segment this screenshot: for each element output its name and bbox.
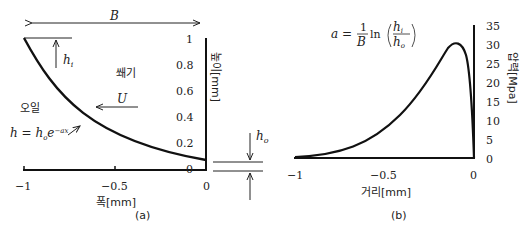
y-tick-label: 0.6: [176, 85, 194, 98]
figure: B hi −1 −0.5 0 폭[mm] (a) 1 0.8 0.6 0.4 0…: [0, 0, 523, 229]
caption-b: (b): [391, 209, 407, 222]
wedge-label: 쐐기: [116, 67, 136, 80]
y-tick-label: 0.4: [176, 111, 194, 124]
x-tick-label: −1: [287, 169, 303, 182]
x-tick-label: 0: [203, 180, 210, 193]
svg-text:B: B: [356, 35, 366, 49]
y-tick-label: 25: [486, 58, 500, 71]
svg-text:1: 1: [360, 21, 367, 34]
caption-a: (a): [135, 209, 150, 222]
velocity-label: U: [117, 92, 128, 106]
y-tick-label: 5: [486, 134, 493, 147]
y-tick-label: 10: [486, 115, 500, 128]
b-label: B: [109, 9, 119, 23]
svg-text:ho: ho: [393, 35, 405, 50]
y-tick-label: 1: [186, 33, 193, 46]
y-tick-label: 20: [486, 77, 500, 90]
x-axis-label-a: 폭[mm]: [96, 196, 136, 209]
y-axis-label-b: 압력[Mpa]: [506, 52, 519, 104]
thickness-equation: h = hoe−ax: [10, 126, 69, 142]
ho-label: ho: [256, 129, 269, 145]
alpha-formula: a = 1 B ln hi ho: [331, 20, 415, 50]
x-tick-label: −0.5: [101, 180, 128, 193]
x-tick-label: −0.5: [370, 169, 397, 182]
svg-text:ln: ln: [370, 28, 381, 41]
y-tick-label: 0: [186, 163, 193, 176]
panel-a: B hi −1 −0.5 0 폭[mm] (a) 1 0.8 0.6 0.4 0…: [10, 9, 269, 222]
pressure-curve: [295, 43, 474, 158]
oil-label: 오일: [20, 101, 40, 115]
y-tick-label: 30: [486, 39, 500, 52]
hi-label: hi: [63, 53, 74, 69]
svg-text:a =: a =: [331, 27, 352, 41]
y-tick-label: 0: [486, 153, 493, 166]
equation-pointer-arrow: [68, 126, 80, 135]
x-tick-label: −1: [15, 180, 31, 193]
y-tick-label: 35: [486, 20, 500, 33]
y-tick-label: 0.2: [176, 137, 194, 150]
y-tick-label: 0.8: [176, 59, 194, 72]
y-axis-label-a: 높이[mm]: [209, 52, 222, 102]
x-tick-label: 0: [470, 169, 477, 182]
y-tick-label: 15: [486, 96, 500, 109]
x-axis-label-b: 거리[mm]: [361, 186, 411, 199]
panel-b: a = 1 B ln hi ho −1 −0.5 0 거리[mm] (b) 35…: [287, 20, 519, 222]
svg-text:hi: hi: [393, 20, 403, 35]
